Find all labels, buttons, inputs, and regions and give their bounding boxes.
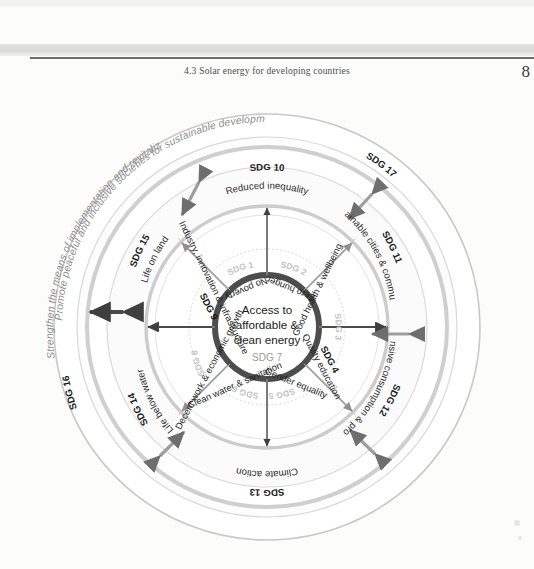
- sdg13-code: SDG 13: [249, 487, 285, 499]
- header-rule: [30, 57, 534, 59]
- running-head: 4.3 Solar energy for developing countrie…: [0, 66, 534, 76]
- sdg10-code: SDG 10: [249, 161, 285, 173]
- core-title-line1: Access to: [242, 303, 292, 316]
- scanned-page: 4.3 Solar energy for developing countrie…: [0, 0, 534, 569]
- core-title-line3: clean energy: [234, 333, 301, 346]
- core-sdg-code: SDG 7: [252, 352, 282, 363]
- scan-artifact-band: [0, 44, 534, 56]
- page-number: 8: [522, 62, 531, 82]
- sdg-wheel-diagram: Promote peaceful and inclusive societies…: [0, 86, 534, 569]
- sdg3-code: SDG 3: [333, 313, 345, 342]
- core-title-line2: affordable &: [236, 318, 299, 331]
- sdg-wheel-svg: Promote peaceful and inclusive societies…: [0, 86, 534, 569]
